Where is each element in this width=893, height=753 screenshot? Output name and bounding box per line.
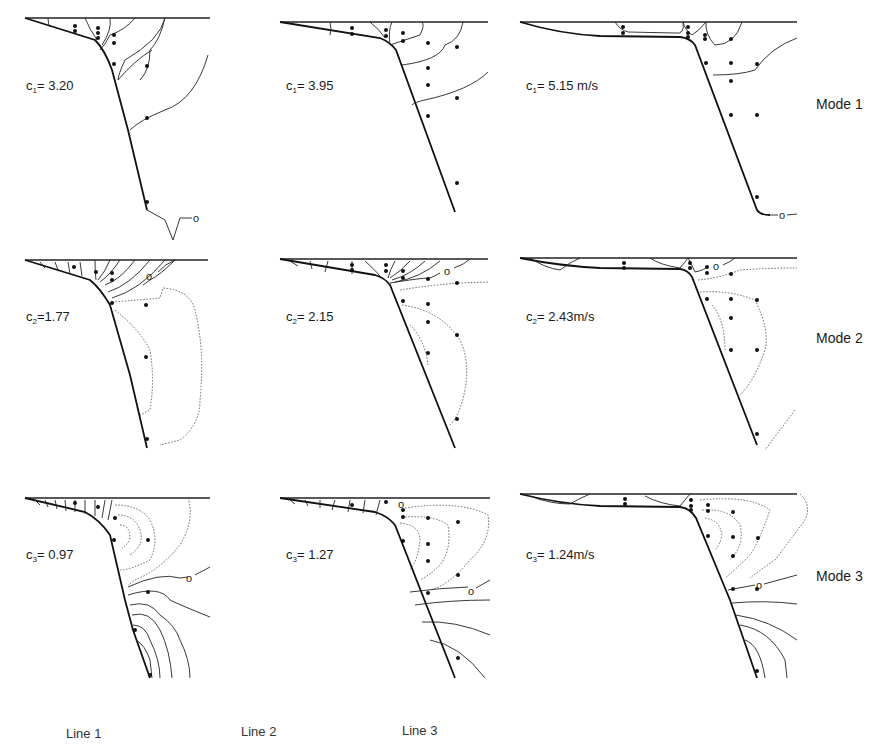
phase-speed-label: c1= 3.20 [26, 78, 73, 95]
modal-structure-figure: o c1= 3.20 [0, 0, 893, 753]
phase-speed-label: c2=1.77 [26, 309, 70, 326]
row-label-mode2: Mode 2 [816, 330, 863, 346]
panel-mode2-line2: o c2= 2.15 [270, 250, 520, 460]
phase-speed-label: c2= 2.43m/s [526, 309, 594, 326]
svg-text:o: o [193, 212, 199, 224]
row-label-mode1: Mode 1 [816, 96, 863, 112]
svg-text:o: o [444, 265, 450, 277]
phase-speed-label: c3= 1.24m/s [526, 547, 594, 564]
svg-text:o: o [468, 585, 474, 597]
contour-plot [270, 0, 520, 250]
contour-plot: o [520, 0, 800, 250]
column-label-line1: Line 1 [66, 726, 101, 741]
column-label-line3: Line 3 [402, 723, 437, 738]
contour-plot: o [270, 250, 520, 460]
column-label-line2: Line 2 [241, 724, 276, 739]
svg-text:o: o [713, 260, 719, 272]
panel-mode2-line1: o c2=1.77 [0, 250, 260, 460]
phase-speed-label: c1= 3.95 [286, 78, 333, 95]
svg-text:o: o [146, 270, 152, 282]
panel-mode3-line1: o c3= 0.97 [0, 460, 260, 680]
panel-mode1-line3: o c1= 5.15 m/s Mode 1 [520, 0, 893, 250]
svg-text:o: o [186, 572, 192, 584]
phase-speed-label: c2= 2.15 [286, 309, 333, 326]
panel-mode1-line2: c1= 3.95 [270, 0, 520, 250]
panel-mode2-line3: o c2= 2.43m/s Mode 2 [520, 250, 893, 460]
svg-text:o: o [779, 209, 785, 221]
row-label-mode3: Mode 3 [816, 568, 863, 584]
contour-plot: o [0, 0, 260, 250]
contour-plot: o o [270, 460, 520, 680]
panel-mode1-line1: o c1= 3.20 [0, 0, 260, 250]
phase-speed-label: c3= 0.97 [26, 547, 73, 564]
phase-speed-label: c3= 1.27 [286, 547, 333, 564]
panel-mode3-line2: o o c3= 1.27 [270, 460, 520, 680]
contour-plot: o [520, 460, 810, 680]
contour-plot: o [520, 250, 800, 460]
contour-plot: o [0, 460, 260, 680]
panel-mode3-line3: o c3= 1.24m/s Mode 3 [520, 460, 893, 680]
phase-speed-label: c1= 5.15 m/s [526, 78, 598, 95]
contour-plot: o [0, 250, 260, 460]
